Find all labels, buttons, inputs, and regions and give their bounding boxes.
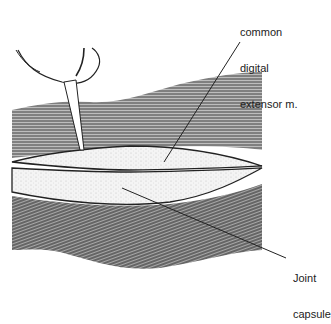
- label-joint-capsule: Joint capsule: [293, 248, 331, 324]
- label-common-digital-extensor: common digital extensor m.: [240, 2, 297, 122]
- hand: [18, 48, 100, 83]
- upper-tissue: [12, 72, 262, 158]
